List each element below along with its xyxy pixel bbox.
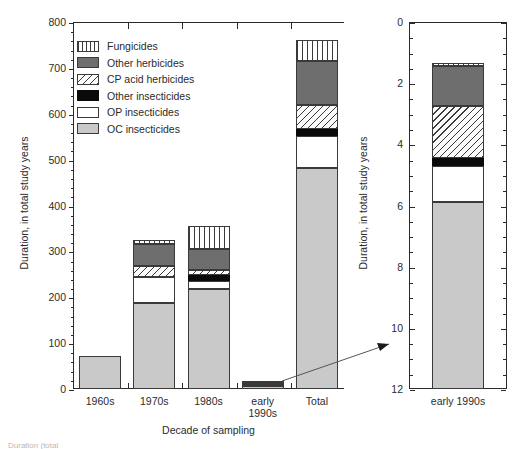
y-tick-minor <box>71 372 74 373</box>
y-tick-minor <box>71 317 74 318</box>
inset-y-tick-major <box>410 390 415 391</box>
bar-early-1990s <box>242 384 284 389</box>
y-tick-major <box>69 23 74 24</box>
x-tick <box>291 23 292 29</box>
y-tick-minor <box>71 307 74 308</box>
inset-bar-segment-other-herb <box>432 66 484 106</box>
inset-y-tick-label: 8 <box>369 262 403 272</box>
bar-segment-other-ins <box>188 275 230 281</box>
legend-item-other-herb: Other herbicides <box>77 55 227 72</box>
bar-segment-op <box>296 136 338 168</box>
bar-segment-fung <box>296 40 338 61</box>
inset-y-tick-major <box>501 207 506 208</box>
bar-segment-other-herb <box>296 61 338 105</box>
y-tick-major <box>69 298 74 299</box>
y-tick-minor <box>71 151 74 152</box>
inset-y-tick-minor <box>503 69 506 70</box>
bar-total <box>296 40 338 389</box>
inset-y-tick-label: 12 <box>369 384 403 394</box>
inset-y-tick-minor <box>410 298 413 299</box>
y-tick-label: 400 <box>24 201 66 211</box>
y-tick-major <box>69 115 74 116</box>
y-tick-major <box>69 252 74 253</box>
y-tick-minor <box>71 179 74 180</box>
inset-y-tick-minor <box>503 283 506 284</box>
inset-y-tick-minor <box>410 176 413 177</box>
inset-y-tick-minor <box>410 375 413 376</box>
inset-bar-segment-oc <box>432 202 484 389</box>
x-tick <box>128 23 129 29</box>
y-tick-minor <box>71 133 74 134</box>
x-tick <box>237 23 238 29</box>
legend-swatch-op-icon <box>77 107 99 118</box>
bar-1970s <box>133 240 175 389</box>
inset-y-tick-minor <box>410 54 413 55</box>
inset-y-tick-minor <box>503 237 506 238</box>
inset-y-tick-minor <box>410 344 413 345</box>
inset-y-tick-minor <box>503 115 506 116</box>
inset-y-tick-minor <box>410 314 413 315</box>
inset-y-tick-major <box>410 84 415 85</box>
inset-bar-early-1990s <box>432 66 484 389</box>
bar-segment-oc <box>79 356 121 389</box>
inset-y-tick-major <box>410 207 415 208</box>
inset-y-tick-minor <box>503 375 506 376</box>
y-tick-major <box>69 161 74 162</box>
inset-y-tick-major <box>501 145 506 146</box>
legend-item-cp: CP acid herbicides <box>77 71 227 88</box>
inset-y-tick-label: 10 <box>369 323 403 333</box>
bar-segment-other-herb <box>133 244 175 266</box>
bar-segment-oc <box>296 168 338 389</box>
bar-segment-fung <box>133 240 175 244</box>
bar-segment-op <box>188 281 230 289</box>
legend-label: Fungicides <box>107 40 158 52</box>
x-tick <box>291 383 292 388</box>
main-x-axis-title: Decade of sampling <box>53 424 364 436</box>
inset-y-tick-minor <box>503 176 506 177</box>
x-tick <box>128 383 129 388</box>
inset-y-tick-minor <box>503 130 506 131</box>
bar-segment-cp <box>296 105 338 129</box>
y-tick-label: 500 <box>24 155 66 165</box>
inset-x-axis-tick-label: early 1990s <box>408 395 508 407</box>
inset-y-tick-minor <box>503 359 506 360</box>
x-tick <box>182 23 183 29</box>
legend-item-oc: OC insecticides <box>77 121 227 138</box>
inset-y-tick-minor <box>410 237 413 238</box>
legend-item-other-ins: Other insecticides <box>77 88 227 105</box>
bar-1960s <box>79 356 121 389</box>
y-tick-major <box>69 69 74 70</box>
bar-segment-op <box>133 277 175 303</box>
inset-y-tick-minor <box>503 191 506 192</box>
inset-y-tick-minor <box>410 69 413 70</box>
y-tick-minor <box>71 280 74 281</box>
y-tick-label: 200 <box>24 292 66 302</box>
y-tick-minor <box>71 124 74 125</box>
inset-y-tick-minor <box>503 54 506 55</box>
bar-segment-cp <box>133 266 175 277</box>
legend-label: OC insecticides <box>107 123 180 135</box>
legend-label: Other herbicides <box>107 57 184 69</box>
bar-segment-other-herb <box>188 249 230 270</box>
y-tick-minor <box>71 60 74 61</box>
y-tick-minor <box>71 32 74 33</box>
inset-y-tick-minor <box>503 222 506 223</box>
y-tick-label: 300 <box>24 246 66 256</box>
y-tick-major <box>69 390 74 391</box>
x-tick-label-line: 1990s <box>223 407 303 419</box>
y-tick-minor <box>71 362 74 363</box>
figure-caption: Duration (total <box>8 441 516 449</box>
legend-swatch-fung-icon <box>77 41 99 52</box>
y-tick-label: 0 <box>24 384 66 394</box>
y-tick-minor <box>71 271 74 272</box>
x-tick <box>182 383 183 388</box>
bar-segment-cp <box>188 270 230 276</box>
inset-y-tick-minor <box>503 252 506 253</box>
y-tick-label: 800 <box>24 17 66 27</box>
inset-y-tick-minor <box>410 99 413 100</box>
y-tick-minor <box>71 262 74 263</box>
inset-y-tick-minor <box>410 130 413 131</box>
legend-swatch-other-herb-icon <box>77 57 99 68</box>
inset-y-tick-minor <box>503 344 506 345</box>
y-tick-minor <box>71 106 74 107</box>
